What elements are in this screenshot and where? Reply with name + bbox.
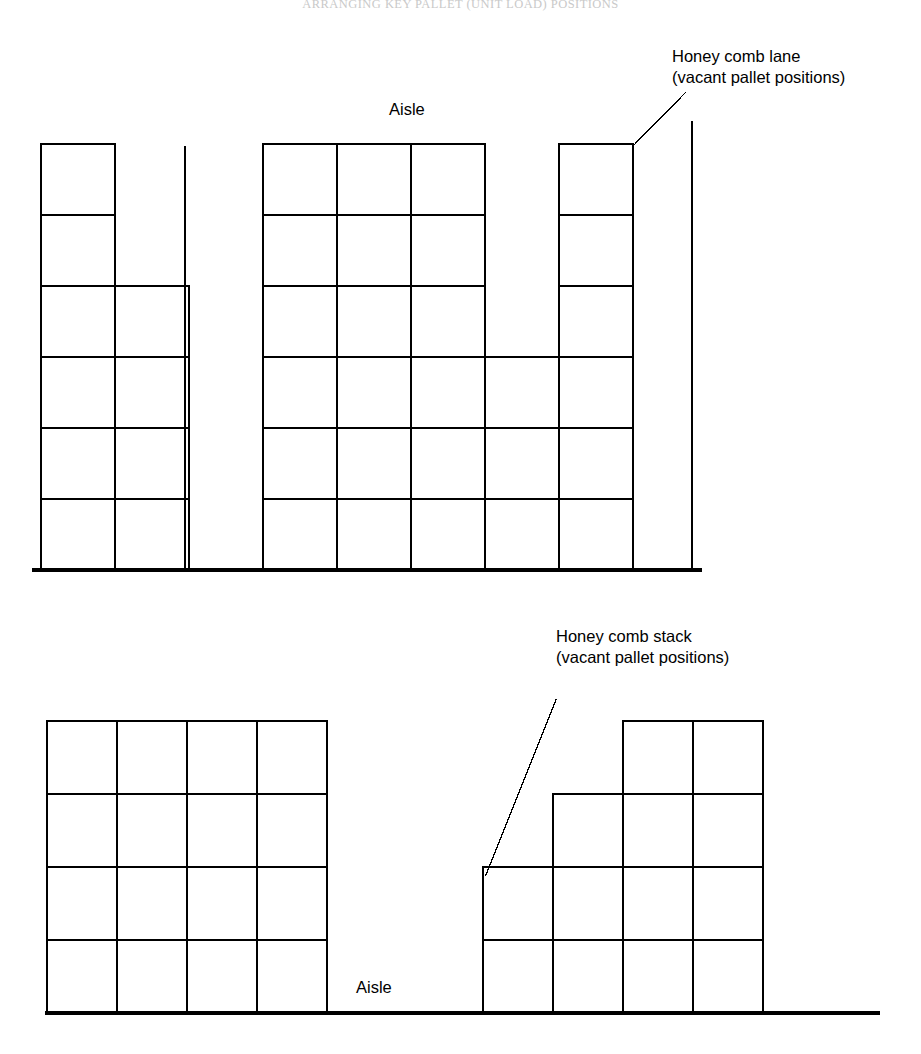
honey-comb-stack-leader: [486, 700, 556, 875]
figure-stage: ARRANGING KEY PALLET (UNIT LOAD) POSITIO…: [0, 0, 921, 1054]
honey-comb-lane-leader: [633, 92, 686, 146]
diagram-linework: [0, 0, 921, 1054]
